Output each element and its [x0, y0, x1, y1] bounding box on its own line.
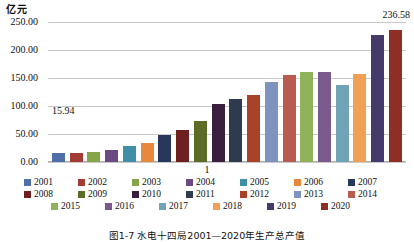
- legend-label: 2011: [196, 189, 215, 199]
- y-axis-tick-label: 200.00: [0, 45, 38, 55]
- legend-item-2010[interactable]: 2010: [132, 189, 174, 199]
- bar-2008: [176, 130, 189, 162]
- figure-container: 亿元 0.0050.00100.00150.00200.00250.00 15.…: [0, 0, 414, 242]
- legend-label: 2009: [88, 189, 107, 199]
- bar-2014: [283, 75, 296, 162]
- legend-row: 2008200920102011201220132014: [24, 189, 390, 199]
- legend-label: 2002: [88, 177, 107, 187]
- y-axis-tick-label: 250.00: [0, 17, 38, 27]
- legend-swatch-icon: [78, 179, 85, 186]
- bar-2013: [265, 82, 278, 162]
- legend-item-2019[interactable]: 2019: [267, 201, 309, 211]
- bar-2020: [389, 30, 402, 162]
- legend-label: 2012: [250, 189, 269, 199]
- bar-2011: [229, 99, 242, 162]
- legend-swatch-icon: [186, 179, 193, 186]
- legend-swatch-icon: [213, 203, 220, 210]
- legend-swatch-icon: [159, 203, 166, 210]
- plot-area: 0.0050.00100.00150.00200.00250.00: [48, 22, 406, 162]
- legend-swatch-icon: [132, 191, 139, 198]
- legend-label: 2010: [142, 189, 161, 199]
- legend-swatch-icon: [24, 191, 31, 198]
- legend-label: 2008: [34, 189, 53, 199]
- legend-label: 2001: [34, 177, 53, 187]
- legend-item-2006[interactable]: 2006: [294, 177, 336, 187]
- legend-item-2020[interactable]: 2020: [321, 201, 363, 211]
- legend-item-2003[interactable]: 2003: [132, 177, 174, 187]
- legend-swatch-icon: [240, 191, 247, 198]
- data-label-last: 236.58: [383, 10, 411, 20]
- legend-item-2007[interactable]: 2007: [348, 177, 390, 187]
- legend-item-2009[interactable]: 2009: [78, 189, 120, 199]
- chart-legend: 2001200220032004200520062007200820092010…: [0, 177, 414, 211]
- y-axis-tick-label: 150.00: [0, 73, 38, 83]
- legend-swatch-icon: [132, 179, 139, 186]
- legend-label: 2017: [169, 201, 188, 211]
- legend-swatch-icon: [78, 191, 85, 198]
- bar-2002: [70, 153, 83, 162]
- legend-item-2011[interactable]: 2011: [186, 189, 228, 199]
- legend-item-2016[interactable]: 2016: [105, 201, 147, 211]
- legend-label: 2018: [223, 201, 242, 211]
- bar-2010: [212, 104, 225, 162]
- bar-2009: [194, 121, 207, 162]
- legend-item-2004[interactable]: 2004: [186, 177, 228, 187]
- bar-2006: [141, 143, 154, 162]
- bar-2004: [105, 150, 118, 162]
- bar-2016: [318, 72, 331, 162]
- bar-2003: [87, 152, 100, 162]
- legend-row: 201520162017201820192020: [51, 201, 363, 211]
- y-axis-tick-label: 100.00: [0, 101, 38, 111]
- legend-item-2002[interactable]: 2002: [78, 177, 120, 187]
- data-label-first: 15.94: [52, 106, 75, 116]
- gridline: [48, 162, 406, 163]
- legend-label: 2004: [196, 177, 215, 187]
- legend-swatch-icon: [321, 203, 328, 210]
- legend-swatch-icon: [267, 203, 274, 210]
- legend-item-2015[interactable]: 2015: [51, 201, 93, 211]
- x-axis-category-label: 1: [0, 164, 414, 175]
- legend-item-2018[interactable]: 2018: [213, 201, 255, 211]
- legend-swatch-icon: [186, 191, 193, 198]
- legend-row: 2001200220032004200520062007: [24, 177, 390, 187]
- legend-label: 2003: [142, 177, 161, 187]
- y-axis-tick-label: 50.00: [0, 129, 38, 139]
- y-axis-title: 亿元: [6, 1, 27, 16]
- legend-item-2017[interactable]: 2017: [159, 201, 201, 211]
- legend-item-2005[interactable]: 2005: [240, 177, 282, 187]
- legend-label: 2005: [250, 177, 269, 187]
- bar-2019: [371, 35, 384, 162]
- bar-series: [48, 22, 406, 162]
- legend-swatch-icon: [294, 191, 301, 198]
- legend-swatch-icon: [51, 203, 58, 210]
- legend-swatch-icon: [24, 179, 31, 186]
- legend-swatch-icon: [294, 179, 301, 186]
- bar-2015: [300, 72, 313, 162]
- legend-swatch-icon: [348, 179, 355, 186]
- legend-swatch-icon: [105, 203, 112, 210]
- bar-2017: [336, 85, 349, 162]
- legend-label: 2006: [304, 177, 323, 187]
- legend-swatch-icon: [240, 179, 247, 186]
- legend-label: 2014: [358, 189, 377, 199]
- bar-2012: [247, 95, 260, 162]
- legend-label: 2015: [61, 201, 80, 211]
- legend-label: 2007: [358, 177, 377, 187]
- legend-item-2013[interactable]: 2013: [294, 189, 336, 199]
- legend-item-2012[interactable]: 2012: [240, 189, 282, 199]
- legend-item-2008[interactable]: 2008: [24, 189, 66, 199]
- figure-caption: 图1-7 水电十四局2001—2020年生产总产值: [0, 228, 414, 242]
- legend-label: 2013: [304, 189, 323, 199]
- legend-label: 2019: [277, 201, 296, 211]
- bar-2007: [158, 135, 171, 162]
- legend-item-2001[interactable]: 2001: [24, 177, 66, 187]
- legend-label: 2020: [331, 201, 350, 211]
- bar-2005: [123, 146, 136, 162]
- legend-swatch-icon: [348, 191, 355, 198]
- bar-2001: [52, 153, 65, 162]
- legend-label: 2016: [115, 201, 134, 211]
- legend-item-2014[interactable]: 2014: [348, 189, 390, 199]
- bar-2018: [353, 74, 366, 162]
